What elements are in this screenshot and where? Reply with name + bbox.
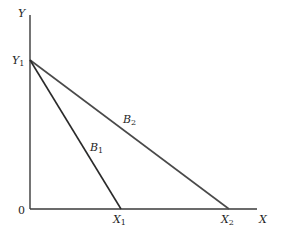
- y1-intercept-label: Y1: [12, 55, 24, 68]
- x-axis-label-text: X: [259, 213, 267, 226]
- b2-line-label: B2: [123, 114, 136, 127]
- origin-label: 0: [18, 205, 25, 216]
- b1-line-label: B1: [90, 142, 103, 155]
- x1-sub: 1: [121, 218, 126, 227]
- origin-text: 0: [18, 204, 25, 217]
- budget-line-b2: [30, 60, 229, 209]
- x1-base: X: [113, 213, 121, 226]
- b2-sub: 2: [131, 118, 136, 127]
- x-axis-label: X: [259, 214, 267, 225]
- budget-line-b1: [30, 60, 121, 209]
- y1-sub: 1: [19, 59, 24, 68]
- b1-sub: 1: [98, 146, 103, 155]
- x2-sub: 2: [229, 218, 234, 227]
- x2-intercept-label: X2: [221, 214, 234, 227]
- y-axis-label-text: Y: [18, 7, 25, 20]
- budget-line-diagram: [0, 0, 288, 240]
- b1-base: B: [90, 141, 98, 154]
- x2-base: X: [221, 213, 229, 226]
- y-axis-label: Y: [18, 8, 25, 19]
- b2-base: B: [123, 113, 131, 126]
- x1-intercept-label: X1: [113, 214, 126, 227]
